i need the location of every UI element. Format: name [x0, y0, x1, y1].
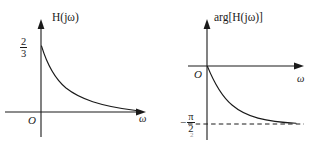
magnitude-x-axis-label: ω	[139, 114, 146, 125]
magnitude-curve	[42, 46, 137, 111]
phase-y-axis-label: arg[H(jω)]	[214, 12, 263, 24]
phase-y-axis-arrowhead	[204, 19, 211, 29]
magnitude-response-plot: H(jω) 2 3 O ω	[0, 0, 156, 150]
phase-x-axis-label: ω	[297, 74, 304, 85]
phase-x-axis-arrowhead	[294, 63, 304, 70]
magnitude-ytick-label: 2 3	[20, 36, 27, 60]
phase-response-plot: arg[H(jω)] O − π 2 ω	[156, 0, 312, 150]
fraction-numerator: 2	[20, 36, 27, 48]
magnitude-y-axis-label: H(jω)	[52, 12, 79, 24]
phase-y-axis-label-text: arg[H(jω)]	[214, 11, 263, 23]
minus-sign: −	[180, 117, 186, 128]
page-artifact-mark: 2	[190, 131, 194, 139]
fraction-denominator: 3	[20, 48, 27, 60]
figure-frequency-response: H(jω) 2 3 O ω arg[H(jω)]	[0, 0, 312, 150]
phase-curve	[208, 67, 297, 124]
fraction-two-thirds: 2 3	[20, 36, 27, 60]
magnitude-y-axis-arrowhead	[38, 19, 45, 29]
fraction-numerator: π	[187, 111, 194, 123]
phase-origin-label: O	[194, 69, 202, 80]
magnitude-y-axis-label-text: H(jω)	[52, 11, 79, 23]
magnitude-origin-label: O	[28, 115, 36, 126]
